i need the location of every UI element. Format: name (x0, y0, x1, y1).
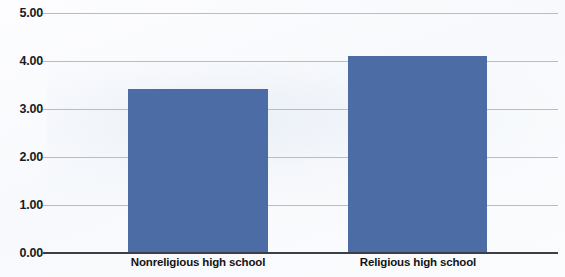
tick-nub-1 (43, 205, 48, 206)
tick-nub-3 (43, 109, 48, 110)
x-category-label-nonreligious: Nonreligious high school (108, 257, 288, 269)
tick-nub-5 (43, 13, 48, 14)
bar-religious-high-school[interactable] (348, 56, 487, 252)
x-axis-baseline (47, 252, 558, 254)
tick-nub-4 (43, 61, 48, 62)
tick-nub-0 (43, 252, 48, 254)
y-tick-label-2: 2.00 (0, 151, 43, 164)
bar-chart: 5.00 4.00 3.00 2.00 1.00 0.00 Nonreligio… (0, 0, 565, 277)
y-tick-label-4: 4.00 (0, 55, 43, 68)
y-tick-label-5: 5.00 (0, 7, 43, 20)
tick-nub-2 (43, 157, 48, 158)
y-tick-label-1: 1.00 (0, 199, 43, 212)
y-tick-label-3: 3.00 (0, 103, 43, 116)
y-tick-label-0: 0.00 (0, 247, 43, 260)
bar-nonreligious-high-school[interactable] (128, 89, 268, 252)
gridline-5 (47, 13, 558, 14)
x-category-label-religious: Religious high school (333, 257, 503, 269)
